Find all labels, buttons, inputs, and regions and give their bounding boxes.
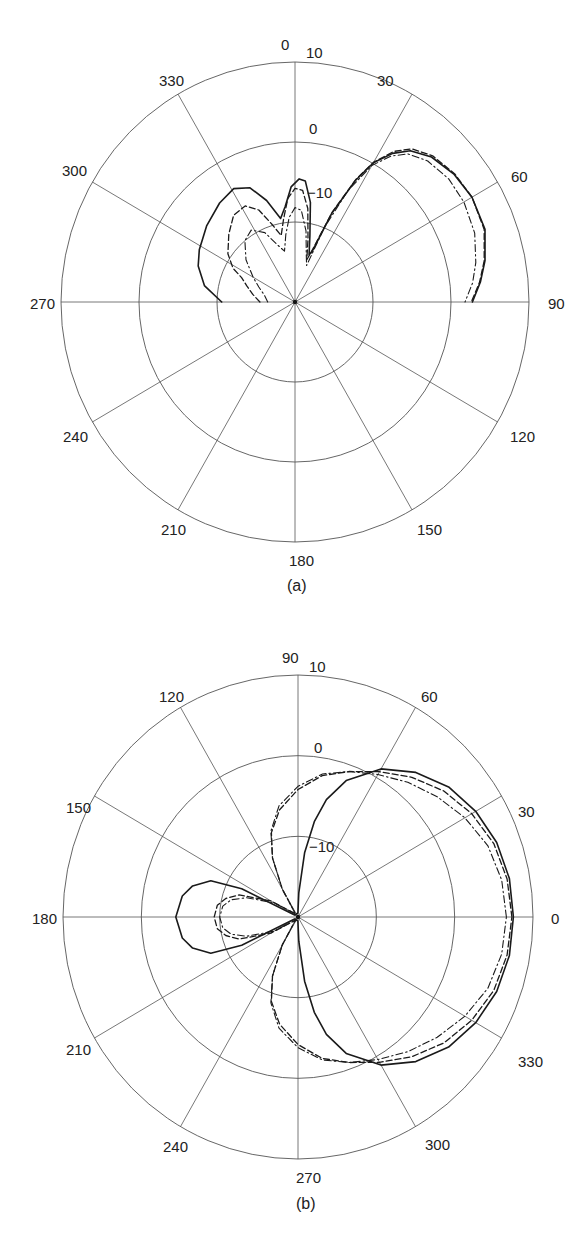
- angle-tick-label: 300: [425, 1136, 450, 1153]
- grid-spoke: [94, 917, 298, 1038]
- angle-tick-label: 210: [66, 1041, 91, 1058]
- grid-spoke: [298, 796, 502, 917]
- angle-tick-label: 30: [518, 803, 535, 820]
- angle-tick-label: 120: [510, 428, 535, 445]
- radial-tick-label: 0: [314, 739, 322, 756]
- origin-dot: [296, 915, 300, 919]
- radial-tick-label: 10: [306, 44, 323, 61]
- angle-tick-label: 30: [377, 72, 394, 89]
- angle-tick-label: 330: [159, 72, 184, 89]
- angle-tick-label: 300: [62, 162, 87, 179]
- angle-tick-label: 330: [518, 1053, 543, 1070]
- grid-b: [63, 675, 533, 1159]
- angle-tick-label: 90: [282, 649, 299, 666]
- angle-tick-label: 270: [296, 1169, 321, 1186]
- angle-tick-label: 150: [66, 799, 91, 816]
- grid-spoke: [94, 796, 298, 917]
- angle-tick-label: 240: [163, 1138, 188, 1155]
- grid-spoke: [181, 917, 299, 1127]
- grid-spoke: [92, 302, 295, 422]
- angle-tick-label: 240: [63, 428, 88, 445]
- grid-spoke: [298, 917, 502, 1038]
- angle-tick-label: 0: [281, 36, 289, 53]
- angle-tick-label: 90: [548, 295, 565, 312]
- polar-chart-a: 0306090120150180210240270300330100−10(a): [30, 36, 565, 594]
- grid-spoke: [178, 94, 295, 302]
- angle-tick-label: 120: [159, 688, 184, 705]
- grid-spoke: [295, 302, 498, 422]
- grid-spoke: [295, 302, 412, 510]
- grid-spoke: [178, 302, 295, 510]
- angle-tick-label: 150: [417, 521, 442, 538]
- panel-caption: (a): [287, 577, 307, 594]
- angle-tick-label: 0: [551, 910, 559, 927]
- labels-b: 9060300330300270240210180150120100−10(b): [32, 649, 559, 1212]
- radial-tick-label: 0: [309, 120, 317, 137]
- angle-tick-label: 180: [289, 552, 314, 569]
- panel-caption: (b): [296, 1195, 316, 1212]
- angle-tick-label: 60: [511, 168, 528, 185]
- curves-a: [198, 149, 485, 302]
- grid-a: [61, 62, 529, 542]
- grid-spoke: [181, 707, 299, 917]
- angle-tick-label: 270: [30, 295, 55, 312]
- origin-dot: [293, 300, 297, 304]
- angle-tick-label: 180: [32, 910, 57, 927]
- labels-a: 0306090120150180210240270300330100−10(a): [30, 36, 565, 594]
- angle-tick-label: 210: [161, 521, 186, 538]
- grid-spoke: [92, 182, 295, 302]
- polar-chart-b: 9060300330300270240210180150120100−10(b): [32, 649, 559, 1212]
- radial-tick-label: −10: [307, 184, 332, 201]
- polar-charts: 0306090120150180210240270300330100−10(a)…: [0, 0, 581, 1245]
- radial-tick-label: 10: [309, 658, 326, 675]
- series-dashed: [228, 149, 484, 302]
- grid-spoke: [298, 917, 416, 1127]
- radial-tick-label: −10: [309, 838, 334, 855]
- angle-tick-label: 60: [421, 688, 438, 705]
